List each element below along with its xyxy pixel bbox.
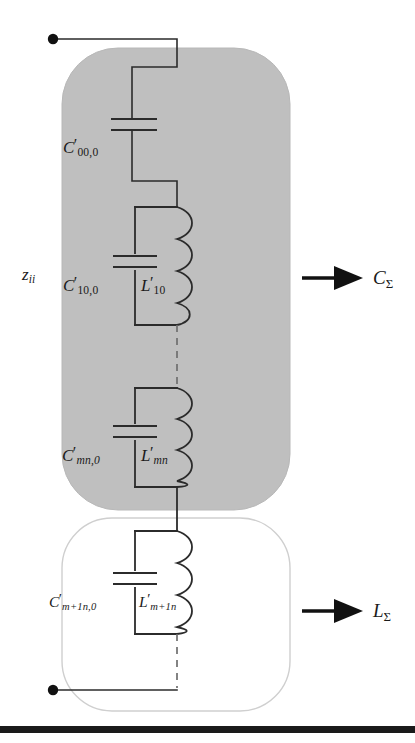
lcm1n-ind-subscript: m+1n — [150, 601, 176, 612]
bottom-rule — [0, 726, 415, 733]
capacitive-sum-label: CΣ — [373, 268, 393, 291]
lcm1n-cap-subscript: m+1n,0 — [62, 601, 96, 612]
lcmn-cap-symbol: C — [62, 446, 73, 465]
lc1-cap-subscript: 10,0 — [77, 284, 98, 297]
series-capacitor-symbol-text: C — [63, 138, 74, 157]
lcmn-ind-subscript: mn — [154, 454, 169, 467]
inductive-sum-label: LΣ — [373, 601, 391, 624]
impedance-subscript: ii — [29, 273, 36, 286]
inductive-sum-subscript: Σ — [384, 609, 392, 624]
capacitive-sum-subscript: Σ — [386, 276, 394, 291]
impedance-label: zii — [22, 266, 35, 286]
figure-canvas: zii C′00,0 C′10,0 L′10 C′mn,0 L′mn C′m+1… — [0, 0, 415, 743]
lc-block-mn-capacitor-label: C′mn,0 — [62, 445, 100, 467]
lc-block-1-inductor-label: L′10 — [141, 275, 165, 297]
lcmn-cap-subscript: mn,0 — [76, 454, 100, 467]
capacitive-group-arrow — [302, 266, 363, 290]
impedance-symbol: z — [22, 265, 29, 284]
top-terminal-dot — [48, 34, 58, 44]
lc-block-mn-inductor-label: L′mn — [141, 445, 168, 467]
bottom-terminal-dot — [48, 685, 58, 695]
inductive-group-arrow — [302, 599, 363, 623]
lcm1n-cap-symbol: C — [49, 593, 59, 610]
capacitive-sum-symbol: C — [373, 267, 386, 288]
inductive-sum-symbol: L — [373, 600, 384, 621]
lc1-cap-symbol: C — [63, 276, 74, 295]
circuit-svg — [0, 0, 415, 743]
lc-block-1-capacitor-label: C′10,0 — [63, 275, 98, 297]
lc1-ind-subscript: 10 — [154, 284, 166, 297]
inductive-group-region — [62, 518, 290, 711]
lc-block-m1n-capacitor-label: C′m+1n,0 — [49, 592, 96, 612]
lc-block-m1n-inductor-label: L′m+1n — [139, 592, 176, 612]
series-capacitor-subscript: 00,0 — [77, 146, 98, 159]
series-capacitor-label: C′00,0 — [63, 137, 98, 159]
